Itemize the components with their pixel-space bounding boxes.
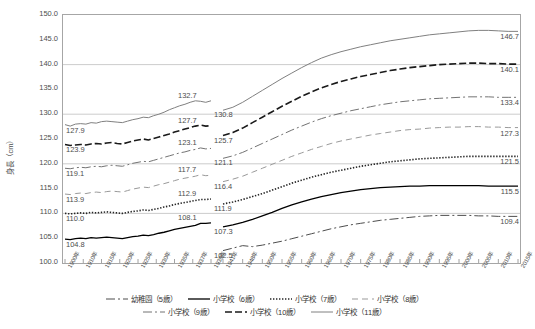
data-point-label: 113.9 <box>66 196 84 204</box>
legend-line-swatch <box>188 295 210 303</box>
data-point-label: 140.1 <box>500 66 519 74</box>
data-point-label: 117.7 <box>178 166 196 174</box>
series-line <box>223 97 518 159</box>
series-line <box>223 215 518 250</box>
legend-line-swatch <box>270 295 292 303</box>
y-tick-label: 135.0 <box>24 84 58 92</box>
legend-row-2: 小学校（9歳）小学校（10歳）小学校（11歳） <box>0 305 529 318</box>
legend-item[interactable]: 幼稚園（5歳） <box>106 293 177 304</box>
data-point-label: 125.7 <box>214 137 233 145</box>
series-line <box>65 199 211 214</box>
legend-item[interactable]: 小学校（6歳） <box>188 293 259 304</box>
data-point-label: 146.7 <box>500 33 519 41</box>
legend-line-swatch <box>106 295 128 303</box>
data-point-label: 111.9 <box>214 205 232 213</box>
y-tick-label: 105.0 <box>24 233 58 241</box>
data-point-label: 119.1 <box>66 170 84 178</box>
data-point-label: 123.1 <box>178 139 197 147</box>
series-line <box>223 63 518 135</box>
data-point-label: 110.0 <box>66 215 84 223</box>
legend-line-swatch <box>352 295 374 303</box>
legend-item[interactable]: 小学校（8歳） <box>352 293 423 304</box>
legend-item-label: 小学校（8歳） <box>377 293 423 304</box>
data-point-label: 109.4 <box>500 218 519 226</box>
y-tick-label: 100.0 <box>24 258 58 266</box>
y-axis-title: 身長（cm） <box>4 121 15 191</box>
data-point-label: 127.9 <box>66 127 85 135</box>
y-tick-label: 145.0 <box>24 35 58 43</box>
data-point-label: 132.7 <box>178 92 197 100</box>
series-line <box>223 30 518 110</box>
legend-line-swatch <box>225 308 247 316</box>
data-point-label: 127.3 <box>500 130 519 138</box>
legend-item[interactable]: 小学校（10歳） <box>225 306 300 317</box>
data-point-label: 108.1 <box>178 214 197 222</box>
y-tick-label: 140.0 <box>24 60 58 68</box>
series-line <box>223 127 518 182</box>
y-tick-label: 125.0 <box>24 134 58 142</box>
data-point-label: 121.5 <box>500 158 519 166</box>
plot-area: 127.9132.7130.8146.7123.9127.7125.7140.1… <box>62 14 521 264</box>
legend-item-label: 小学校（11歳） <box>336 306 386 317</box>
data-point-label: 104.8 <box>66 241 85 249</box>
data-point-label: 112.9 <box>178 190 196 198</box>
y-tick-label: 130.0 <box>24 109 58 117</box>
legend-item-label: 小学校（6歳） <box>213 293 259 304</box>
y-tick-label: 150.0 <box>24 10 58 18</box>
data-point-label: 116.4 <box>214 183 232 191</box>
legend-item-label: 小学校（7歳） <box>295 293 341 304</box>
legend-line-swatch <box>311 308 333 316</box>
data-point-label: 127.7 <box>178 117 197 125</box>
legend-row-1: 幼稚園（5歳）小学校（6歳）小学校（7歳）小学校（8歳） <box>0 292 529 305</box>
y-tick-label: 115.0 <box>24 184 58 192</box>
legend-item-label: 小学校（9歳） <box>168 306 214 317</box>
data-point-label: 115.5 <box>501 188 519 196</box>
legend-item[interactable]: 小学校（7歳） <box>270 293 341 304</box>
data-point-label: 133.4 <box>500 99 519 107</box>
data-point-label: 121.1 <box>214 159 233 167</box>
legend-item-label: 幼稚園（5歳） <box>131 293 177 304</box>
data-point-label: 123.9 <box>66 146 85 154</box>
series-canvas <box>63 15 520 263</box>
chart-legend: 幼稚園（5歳）小学校（6歳）小学校（7歳）小学校（8歳） 小学校（9歳）小学校（… <box>0 292 529 318</box>
y-tick-label: 120.0 <box>24 159 58 167</box>
series-line <box>65 223 211 240</box>
legend-line-swatch <box>143 308 165 316</box>
y-axis-tick-labels: 150.0145.0140.0135.0130.0125.0120.0115.0… <box>20 0 58 270</box>
data-point-label: 107.3 <box>214 228 233 236</box>
data-point-label: 130.8 <box>214 111 233 119</box>
y-tick-label: 110.0 <box>24 208 58 216</box>
legend-item-label: 小学校（10歳） <box>250 306 300 317</box>
legend-item[interactable]: 小学校（11歳） <box>311 306 386 317</box>
legend-item[interactable]: 小学校（9歳） <box>143 306 214 317</box>
